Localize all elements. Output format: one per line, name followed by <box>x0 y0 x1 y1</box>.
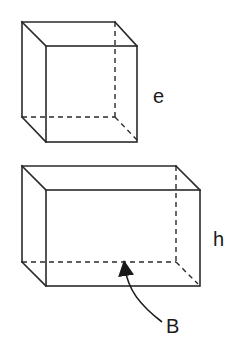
prism-bottom-left-diag <box>22 262 46 286</box>
rectangular-prism: h B <box>22 166 224 337</box>
cube-top-left-diag <box>22 22 46 46</box>
prism-height-label: h <box>213 228 224 250</box>
prism-base-label: B <box>166 315 179 337</box>
cube-edge-label: e <box>153 85 164 107</box>
base-arrow <box>125 268 162 322</box>
prism-top-left-diag <box>22 166 46 190</box>
prism-front-face <box>46 190 200 286</box>
prism-top-right-diag <box>176 166 200 190</box>
cube-hidden-diag <box>115 117 137 140</box>
prism-hidden-diag <box>176 262 198 284</box>
cube-top-right-diag <box>115 22 137 46</box>
cube: e <box>22 22 164 142</box>
cube-bottom-left-diag <box>22 117 46 142</box>
diagram-canvas: e h B <box>0 0 234 339</box>
cube-front-face <box>46 46 137 142</box>
